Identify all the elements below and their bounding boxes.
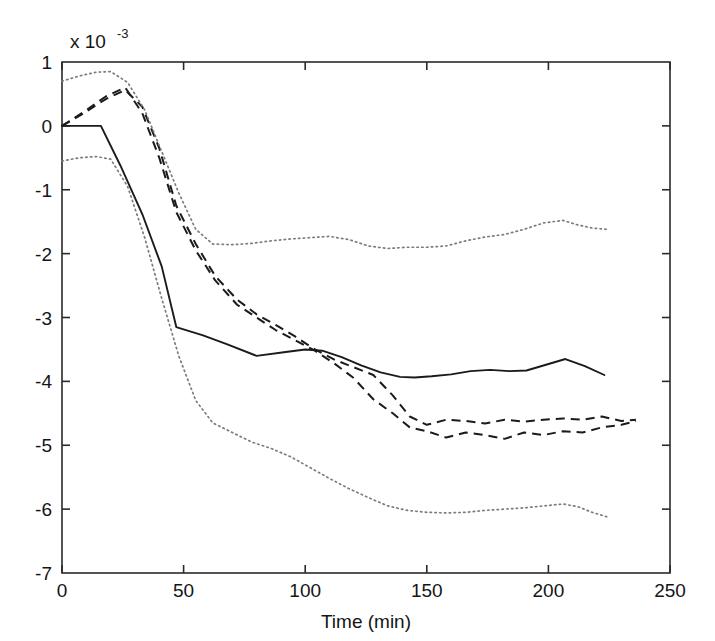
x-tick-label: 0 <box>57 580 68 601</box>
y-tick-label: -3 <box>35 308 52 329</box>
data-series-group <box>62 72 636 517</box>
y-tick-label: -5 <box>35 435 52 456</box>
line-chart: x 10 -3 050100150200250 10-1-2-3-4-5-6-7… <box>0 0 715 641</box>
x-tick-label: 250 <box>654 580 686 601</box>
y-tick-label: -6 <box>35 499 52 520</box>
x-tick-label: 50 <box>173 580 194 601</box>
y-tick-label: 0 <box>41 116 52 137</box>
x-tick-label: 200 <box>533 580 565 601</box>
series-mean-solid <box>62 126 604 378</box>
x-axis-title: Time (min) <box>321 611 411 632</box>
series-upper-bound-dotted <box>62 72 607 249</box>
series-lower-bound-dotted <box>62 157 607 517</box>
series-estimate-dashed-b <box>62 88 636 439</box>
y-tick-label: -1 <box>35 180 52 201</box>
y-exponent-power: -3 <box>117 26 129 41</box>
y-tick-label: -2 <box>35 244 52 265</box>
x-axis-tick-labels: 050100150200250 <box>57 580 686 601</box>
y-tick-label: -4 <box>35 371 52 392</box>
figure-container: x 10 -3 050100150200250 10-1-2-3-4-5-6-7… <box>0 0 715 641</box>
x-tick-label: 150 <box>411 580 443 601</box>
x-tick-label: 100 <box>289 580 321 601</box>
y-exponent-base: x 10 <box>70 31 106 52</box>
y-axis-tick-labels: 10-1-2-3-4-5-6-7 <box>35 52 52 584</box>
y-axis-ticks <box>62 126 670 509</box>
y-tick-label: -7 <box>35 563 52 584</box>
y-tick-label: 1 <box>41 52 52 73</box>
